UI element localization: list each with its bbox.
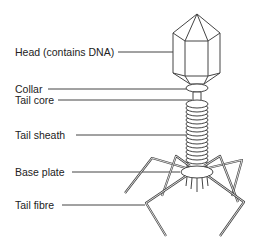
tail-sheath-shape	[186, 100, 208, 172]
collar-shape	[186, 84, 208, 92]
label-tail-core: Tail core	[15, 94, 54, 106]
label-base-plate: Base plate	[15, 166, 65, 178]
label-tail-sheath: Tail sheath	[15, 129, 65, 141]
label-tail-fibre: Tail fibre	[15, 199, 54, 211]
label-head: Head (contains DNA)	[15, 46, 114, 58]
head-shape	[173, 14, 220, 84]
bacteriophage-diagram: Head (contains DNA) Collar Tail core Tai…	[0, 0, 274, 248]
tail-fibres-front	[146, 176, 244, 236]
base-plate-spikes	[186, 177, 208, 192]
